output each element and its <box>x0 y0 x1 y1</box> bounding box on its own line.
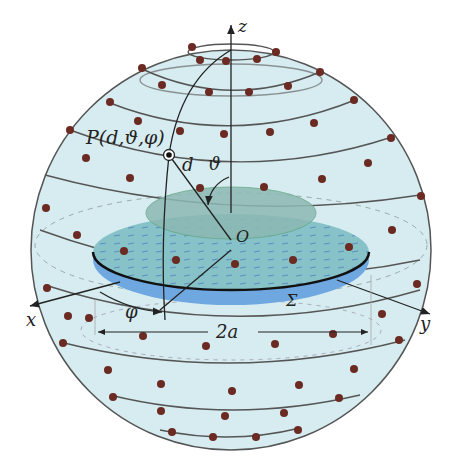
azimuth-label: φ <box>125 301 138 322</box>
surface-label: Σ <box>285 291 298 310</box>
y-axis-label: y <box>419 313 431 334</box>
point-label: P(d,ϑ,φ) <box>85 126 165 148</box>
z-axis-label: z <box>237 16 248 36</box>
diameter-label: 2a <box>215 321 238 342</box>
origin-label: O <box>236 227 249 246</box>
spherical-coordinates-diagram: z x y P(d,ϑ,φ) d ϑ O Σ φ 2a <box>0 0 459 466</box>
distance-label: d <box>182 154 194 175</box>
point-p-marker <box>164 150 175 161</box>
polar-angle-label: ϑ <box>208 153 221 174</box>
x-axis-label: x <box>26 309 36 330</box>
